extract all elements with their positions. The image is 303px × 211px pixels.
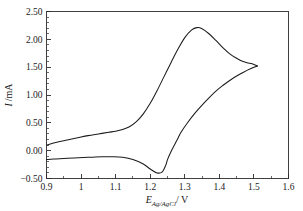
x-tick-label: 1.3 [179, 182, 191, 192]
y-tick-label: 1.50 [26, 62, 43, 72]
x-axis-symbol: E [145, 194, 152, 205]
y-tick-label: 2.00 [26, 35, 43, 45]
x-tick-label: 1.5 [248, 182, 260, 192]
forward-scan-curve [47, 28, 258, 146]
x-axis-subscript: Ag/AgCl [151, 200, 176, 208]
y-tick-label: 1.00 [26, 90, 43, 100]
x-axis-title: EAg/AgCl/ V [145, 194, 189, 208]
svg-text:I/mA: I/mA [3, 83, 14, 108]
y-tick-label: 2.50 [26, 7, 43, 17]
chart-canvas: 0.911.11.21.31.41.51.6 2.502.001.501.000… [0, 0, 303, 211]
y-axis-tick-labels: 2.502.001.501.000.500.00−0.50 [21, 7, 43, 184]
y-axis-title: I/mA [3, 83, 14, 108]
y-tick-label: 0.00 [26, 146, 43, 156]
x-tick-label: 1.1 [110, 182, 122, 192]
x-tick-label: 1.6 [283, 182, 295, 192]
y-axis-symbol: I [3, 103, 14, 108]
y-axis-major-ticks [47, 12, 52, 179]
cyclic-voltammogram-figure: 0.911.11.21.31.41.51.6 2.502.001.501.000… [0, 0, 303, 211]
plot-frame [47, 12, 289, 179]
x-axis-unit: / V [176, 194, 189, 205]
x-tick-label: 1 [79, 182, 84, 192]
data-curves [47, 28, 258, 174]
reverse-scan-curve [47, 66, 258, 173]
y-axis-unit: /mA [3, 83, 14, 102]
x-tick-label: 1.2 [144, 182, 156, 192]
x-tick-label: 1.4 [213, 182, 225, 192]
x-axis-tick-labels: 0.911.11.21.31.41.51.6 [41, 182, 295, 192]
y-tick-label: 0.50 [26, 118, 43, 128]
y-tick-label: −0.50 [21, 174, 43, 184]
svg-text:EAg/AgCl/ V: EAg/AgCl/ V [145, 194, 189, 208]
